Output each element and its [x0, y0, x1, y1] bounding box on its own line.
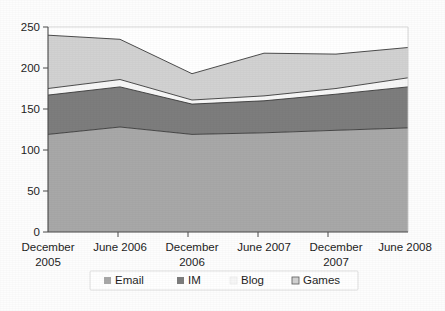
x-tick-label-2-line1: December [165, 241, 218, 253]
stacked-area-chart: 0 50 100 150 200 250 December 2005 June … [0, 0, 445, 311]
y-tick-label-150: 150 [21, 103, 40, 115]
y-tick-label-0: 0 [34, 226, 40, 238]
chart-canvas: 0 50 100 150 200 250 December 2005 June … [0, 0, 445, 311]
legend-swatch-games [292, 277, 299, 284]
x-tick-label-0-line2: 2005 [35, 256, 61, 268]
x-tick-label-4-line1: December [309, 241, 362, 253]
x-tick-label-3-line1: June 2007 [237, 241, 291, 253]
series-area-email [48, 127, 408, 232]
y-tick-label-100: 100 [21, 144, 40, 156]
x-tick-label-1-line1: June 2006 [93, 241, 147, 253]
legend-swatch-blog [230, 277, 237, 284]
x-tick-label-0-line1: December [21, 241, 74, 253]
legend-label-games: Games [303, 274, 340, 286]
legend-swatch-im [177, 277, 184, 284]
y-tick-label-200: 200 [21, 62, 40, 74]
x-tick-label-4-line2: 2007 [323, 256, 349, 268]
legend-swatch-email [104, 277, 111, 284]
x-tick-label-2-line2: 2006 [179, 256, 205, 268]
y-tick-label-50: 50 [27, 185, 40, 197]
y-tick-label-250: 250 [21, 21, 40, 33]
legend-label-blog: Blog [241, 274, 264, 286]
legend-label-im: IM [188, 274, 201, 286]
x-tick-label-5-line1: June 2008 [378, 241, 432, 253]
legend-label-email: Email [115, 274, 144, 286]
